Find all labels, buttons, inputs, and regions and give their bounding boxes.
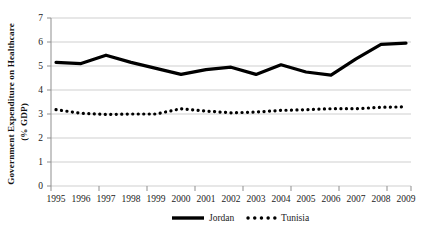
- y-tick-label-2: 2: [38, 133, 43, 143]
- y-tick-label-5: 5: [38, 61, 43, 71]
- y-tick-label-7: 7: [38, 13, 43, 23]
- x-tick-label-2005: 2005: [297, 194, 316, 204]
- legend-label-jordan: Jordan: [209, 213, 235, 223]
- y-tick-label-3: 3: [38, 109, 43, 119]
- y-axis-title-line1: Government Expenditure on Healthcare: [6, 23, 16, 185]
- x-tick-label-2001: 2001: [197, 194, 216, 204]
- y-axis-title-line2: (% GDP): [19, 103, 29, 141]
- legend-label-tunisia: Tunisia: [281, 213, 310, 223]
- x-tick-label-2009: 2009: [397, 194, 416, 204]
- x-tick-label-2007: 2007: [347, 194, 366, 204]
- y-tick-label-4: 4: [38, 85, 43, 95]
- chart-figure: 7 6 5 4 3 2 1 0 1995 1996: [0, 0, 428, 237]
- x-tick-label-1998: 1998: [122, 194, 141, 204]
- x-tick-label-2008: 2008: [372, 194, 391, 204]
- x-tick-label-1999: 1999: [147, 194, 166, 204]
- x-tick-label-2006: 2006: [322, 194, 341, 204]
- y-tick-label-6: 6: [38, 37, 43, 47]
- x-tick-label-1997: 1997: [97, 194, 116, 204]
- x-tick-labels: 1995 1996 1997 1998 1999 2000 2001 2002 …: [47, 194, 416, 204]
- x-tick-label-2003: 2003: [247, 194, 266, 204]
- line-chart: 7 6 5 4 3 2 1 0 1995 1996: [0, 0, 428, 237]
- y-tick-label-0: 0: [38, 181, 43, 191]
- x-tick-label-1996: 1996: [72, 194, 91, 204]
- x-tick-label-2004: 2004: [272, 194, 291, 204]
- x-tick-label-1995: 1995: [47, 194, 66, 204]
- y-tick-label-1: 1: [38, 157, 43, 167]
- x-tick-label-2000: 2000: [172, 194, 191, 204]
- x-tick-label-2002: 2002: [222, 194, 241, 204]
